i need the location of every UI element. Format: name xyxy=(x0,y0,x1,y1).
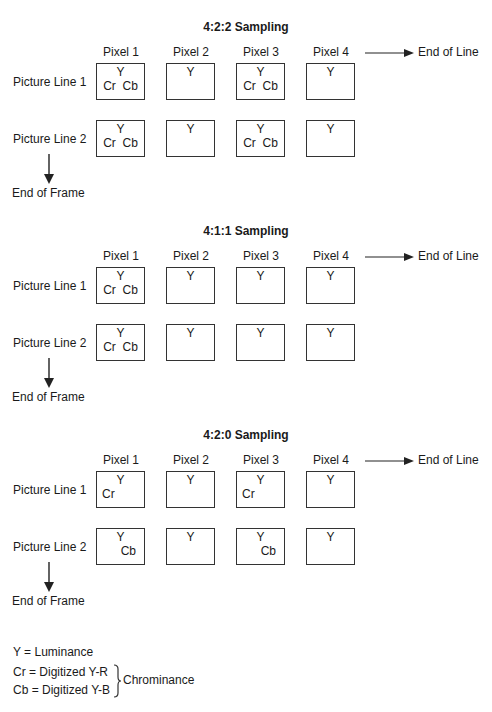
luma-sample: Y xyxy=(97,473,144,487)
column-header: Pixel 4 xyxy=(301,45,361,59)
column-header: Pixel 2 xyxy=(161,249,221,263)
pixel-cell: YCr Cb xyxy=(96,120,145,157)
arrow-right-icon xyxy=(364,46,416,60)
pixel-cell: Y xyxy=(306,324,355,361)
luma-sample: Y xyxy=(307,326,354,340)
arrow-down-icon xyxy=(42,357,56,389)
pixel-cell: Y xyxy=(306,267,355,304)
row-label: Picture Line 2 xyxy=(13,132,86,146)
pixel-cell: Y xyxy=(306,471,355,508)
luma-sample: Y xyxy=(97,326,144,340)
pixel-cell: YCr xyxy=(96,471,145,508)
luma-sample: Y xyxy=(237,122,284,136)
luma-sample: Y xyxy=(97,65,144,79)
pixel-cell: YCr Cb xyxy=(96,63,145,100)
pixel-cell: YCr Cb xyxy=(96,324,145,361)
column-header: Pixel 3 xyxy=(231,249,291,263)
end-of-frame-label: End of Frame xyxy=(12,390,85,404)
pixel-cell: YCr Cb xyxy=(236,63,285,100)
luma-sample: Y xyxy=(167,65,214,79)
row-label: Picture Line 1 xyxy=(13,483,86,497)
chroma-sample: Cr xyxy=(97,487,149,501)
section-title: 4:2:0 Sampling xyxy=(146,428,346,442)
arrow-right-icon xyxy=(364,454,416,468)
arrow-down-icon xyxy=(42,153,56,185)
luma-sample: Y xyxy=(237,65,284,79)
pixel-cell: Y xyxy=(166,471,215,508)
luma-sample: Y xyxy=(167,122,214,136)
pixel-cell: Y xyxy=(166,63,215,100)
luma-sample: Y xyxy=(307,269,354,283)
pixel-cell: YCr Cb xyxy=(236,120,285,157)
pixel-cell: Y xyxy=(166,528,215,565)
pixel-cell: Y xyxy=(236,324,285,361)
column-header: Pixel 2 xyxy=(161,453,221,467)
row-label: Picture Line 1 xyxy=(13,279,86,293)
arrow-down-icon xyxy=(42,561,56,593)
end-of-frame-label: End of Frame xyxy=(12,594,85,608)
chroma-sample: Cb xyxy=(97,544,144,558)
end-of-line-label: End of Line xyxy=(418,249,479,263)
section-title: 4:1:1 Sampling xyxy=(146,224,346,238)
row-label: Picture Line 2 xyxy=(13,336,86,350)
chroma-sample: Cr Cb xyxy=(237,136,284,150)
column-header: Pixel 3 xyxy=(231,453,291,467)
luma-sample: Y xyxy=(237,326,284,340)
luma-sample: Y xyxy=(97,122,144,136)
luma-sample: Y xyxy=(307,530,354,544)
pixel-cell: Y xyxy=(166,267,215,304)
column-header: Pixel 1 xyxy=(91,249,151,263)
chroma-sample: Cr Cb xyxy=(97,283,144,297)
end-of-line-label: End of Line xyxy=(418,45,479,59)
pixel-cell: YCr Cb xyxy=(96,267,145,304)
chroma-sample: Cr Cb xyxy=(97,79,144,93)
luma-sample: Y xyxy=(237,269,284,283)
pixel-cell: Y xyxy=(306,63,355,100)
pixel-cell: Y xyxy=(166,120,215,157)
column-header: Pixel 3 xyxy=(231,45,291,59)
pixel-cell: Y xyxy=(236,267,285,304)
luma-sample: Y xyxy=(307,122,354,136)
luma-sample: Y xyxy=(167,326,214,340)
luma-sample: Y xyxy=(167,269,214,283)
pixel-cell: Y xyxy=(306,120,355,157)
row-label: Picture Line 1 xyxy=(13,75,86,89)
luma-sample: Y xyxy=(97,530,144,544)
pixel-cell: Y xyxy=(306,528,355,565)
chroma-sample: Cb xyxy=(237,544,284,558)
arrow-right-icon xyxy=(364,250,416,264)
end-of-line-label: End of Line xyxy=(418,453,479,467)
pixel-cell: Y xyxy=(166,324,215,361)
legend-chrominance: Chrominance xyxy=(123,673,194,687)
luma-sample: Y xyxy=(237,473,284,487)
luma-sample: Y xyxy=(307,473,354,487)
chroma-sample: Cr Cb xyxy=(97,340,144,354)
column-header: Pixel 4 xyxy=(301,453,361,467)
section-title: 4:2:2 Sampling xyxy=(146,20,346,34)
luma-sample: Y xyxy=(237,530,284,544)
column-header: Pixel 1 xyxy=(91,453,151,467)
luma-sample: Y xyxy=(307,65,354,79)
chroma-sample: Cr Cb xyxy=(237,79,284,93)
column-header: Pixel 2 xyxy=(161,45,221,59)
column-header: Pixel 1 xyxy=(91,45,151,59)
chroma-sample: Cr xyxy=(237,487,289,501)
luma-sample: Y xyxy=(97,269,144,283)
pixel-cell: YCb xyxy=(96,528,145,565)
column-header: Pixel 4 xyxy=(301,249,361,263)
end-of-frame-label: End of Frame xyxy=(12,186,85,200)
pixel-cell: YCr xyxy=(236,471,285,508)
luma-sample: Y xyxy=(167,530,214,544)
chroma-sample: Cr Cb xyxy=(97,136,144,150)
row-label: Picture Line 2 xyxy=(13,540,86,554)
legend-luminance: Y = Luminance xyxy=(13,645,93,659)
legend-cb: Cb = Digitized Y-B xyxy=(13,683,110,697)
brace-icon xyxy=(112,664,122,698)
pixel-cell: YCb xyxy=(236,528,285,565)
legend-cr: Cr = Digitized Y-R xyxy=(13,665,108,679)
luma-sample: Y xyxy=(167,473,214,487)
